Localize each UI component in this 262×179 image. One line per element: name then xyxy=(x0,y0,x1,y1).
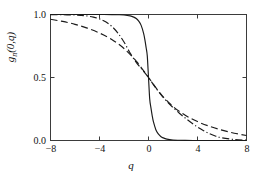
xtick-label-0: 0 xyxy=(136,143,162,154)
data-curves xyxy=(51,14,247,140)
ytick-label-0-5: 0.5 xyxy=(22,72,46,83)
ytick-label-1: 1.0 xyxy=(22,9,46,20)
y-axis-label-base: g xyxy=(4,57,16,63)
x-axis-label-text: q xyxy=(128,159,134,171)
y-axis-label-arg: (0,q) xyxy=(4,32,16,53)
xtick-label-neg8: −8 xyxy=(38,143,64,154)
xtick-label-neg4: −4 xyxy=(87,143,113,154)
y-axis-label-subscript: n xyxy=(10,53,19,57)
x-axis-label: q xyxy=(0,159,262,171)
chart-figure: 1.0 0.5 0.0 −8 −4 0 4 8 q gn(0,q) xyxy=(0,0,262,179)
xtick-label-8: 8 xyxy=(234,143,260,154)
xtick-label-4: 4 xyxy=(185,143,211,154)
curve-dashed xyxy=(51,19,247,135)
y-axis-label: gn(0,q) xyxy=(0,7,18,87)
